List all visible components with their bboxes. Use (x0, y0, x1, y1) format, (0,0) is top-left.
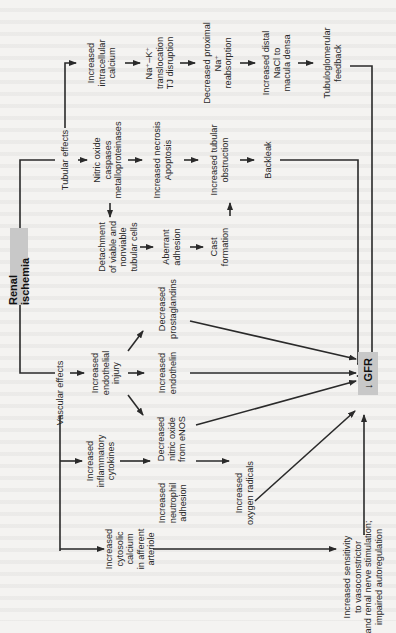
node-increased-intracellular-calcium: Increased intracellular calcium (86, 40, 118, 87)
node-decreased-proximal-na: Decreased proximal Na⁺ reabsorption (202, 22, 234, 104)
node-tubular-obstruction: Increased tubular obstruction (209, 125, 230, 196)
down-arrow-icon: ↓ (362, 383, 374, 389)
gfr-label: GFR (362, 358, 374, 381)
node-cytosolic-calcium: Increased cytosolic calcium in afferent … (104, 529, 157, 570)
node-oxygen-radicals: Increased oxygen radicals (234, 461, 255, 525)
node-nitric-oxide-caspases: Nitric oxide caspases metalloproteinases (92, 121, 124, 198)
gfr-box: ↓ GFR (358, 352, 378, 395)
node-endothelial-injury: Increased endothelial injury (90, 351, 122, 395)
node-decreased-nitric-oxide-enos: Decreased nitric oxide from eNOS (156, 416, 188, 462)
renal-ischemia-label: Renal ischemia (7, 228, 31, 305)
node-inflammatory-cytokines: Increased inflammatory cytokines (85, 435, 117, 488)
node-neutrophil-adhesion: Increased neutrophil adhesion (157, 483, 189, 523)
node-tubuloglomerular-feedback: Tubuloglomerular feedback (322, 27, 343, 98)
node-increased-endothelin: Increased endothelin (157, 352, 178, 394)
node-aberrant-adhesion: Aberrant adhesion (161, 228, 182, 265)
node-na-k-translocation: Na⁺–K⁺ translocation TJ disruption (144, 37, 176, 90)
node-backleak: Backleak (263, 141, 274, 178)
renal-ischemia-box: Renal ischemia (10, 228, 28, 305)
node-increased-distal-nacl: Increased distal NaCl to macula densa (261, 31, 293, 95)
node-necrosis-apoptosis: Increased necrosis Apoptosis (152, 121, 173, 198)
node-vasoconstrictor-sensitivity: Increased sensitivity to vasoconstrictor… (342, 521, 384, 633)
node-detachment-tubular-cells: Detachment of viable and nonviable tubul… (97, 221, 139, 273)
tubular-effects-label: Tubular effects (60, 130, 71, 190)
node-decreased-prostaglandins: Decreased prostaglandins (157, 279, 178, 339)
vascular-effects-label: Vascular effects (55, 361, 66, 426)
node-cast-formation: Cast formation (209, 228, 230, 266)
